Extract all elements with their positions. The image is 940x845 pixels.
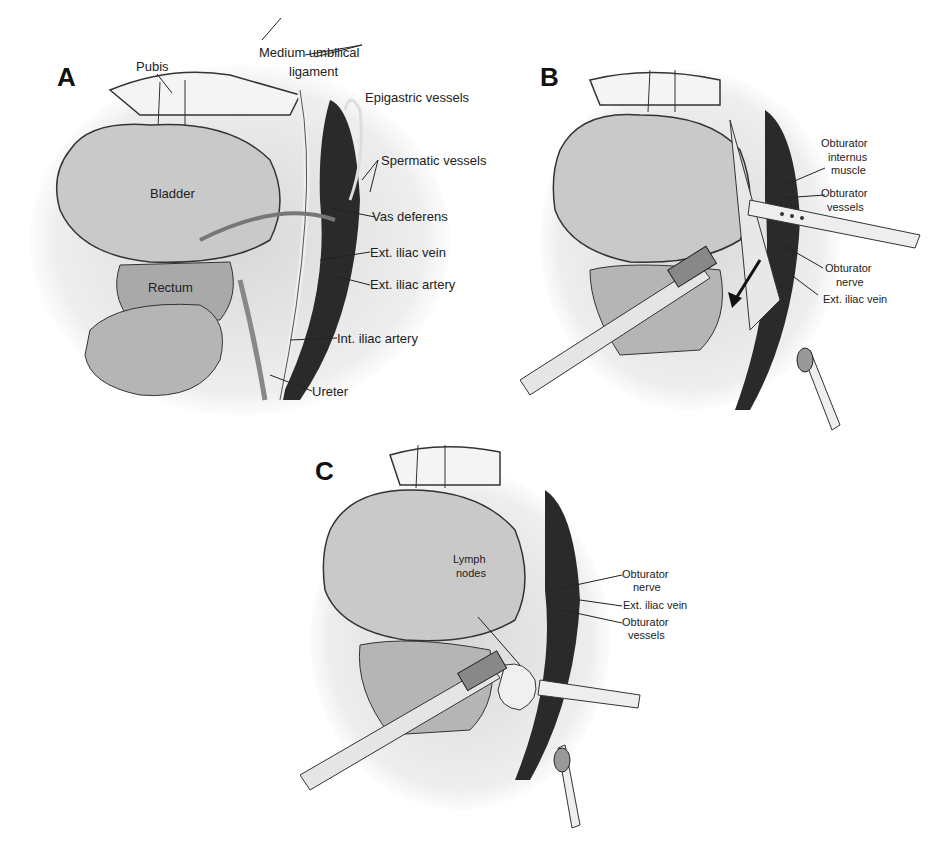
panel-b-illustration (520, 0, 940, 440)
panel-c-letter: C (315, 456, 334, 487)
label-obturator-vessels-line1: Obturator (821, 187, 867, 200)
label-vas-deferens: Vas deferens (372, 209, 448, 224)
label-obturator-vessels-line2: vessels (827, 201, 864, 214)
label-obturator-vessels-c-line2: vessels (628, 629, 665, 642)
label-obturator-nerve-c-line2: nerve (633, 581, 661, 594)
panel-a-letter: A (57, 62, 76, 93)
label-ureter: Ureter (312, 384, 348, 399)
label-ext-iliac-vein-c: Ext. iliac vein (623, 599, 687, 612)
label-obturator-internus-line1: Obturator (821, 137, 867, 150)
label-epigastric-vessels: Epigastric vessels (365, 90, 469, 105)
label-obturator-vessels-c-line1: Obturator (622, 616, 668, 629)
label-lymph-nodes-line2: nodes (456, 567, 486, 580)
label-spermatic-vessels: Spermatic vessels (381, 153, 486, 168)
label-obturator-nerve-c-line1: Obturator (622, 568, 668, 581)
panel-c: C Lymph nodes Obturator nerve Ext. iliac… (300, 440, 720, 845)
panel-b-letter: B (540, 62, 559, 93)
label-lymph-nodes-line1: Lymph (453, 553, 486, 566)
label-obturator-nerve-line2: nerve (836, 276, 864, 289)
label-int-iliac-artery: Int. iliac artery (337, 331, 418, 346)
panel-b: B Obturator internus muscle Obturator ve… (520, 0, 940, 440)
label-rectum: Rectum (148, 280, 193, 295)
panel-c-illustration (300, 440, 720, 845)
label-obturator-internus-line2: internus (828, 151, 867, 164)
label-bladder: Bladder (150, 186, 195, 201)
label-ext-iliac-artery: Ext. iliac artery (370, 277, 455, 292)
label-ext-iliac-vein-b: Ext. iliac vein (823, 293, 887, 306)
label-obturator-nerve-line1: Obturator (825, 262, 871, 275)
label-medium-umbilical-line2: ligament (289, 64, 338, 79)
label-medium-umbilical-line1: Medium umbilical (259, 45, 359, 60)
label-ext-iliac-vein: Ext. iliac vein (370, 245, 446, 260)
label-obturator-internus-line3: muscle (831, 164, 866, 177)
label-pubis: Pubis (136, 59, 169, 74)
panel-a: A Pubis Medium umbilical ligament Epigas… (0, 0, 520, 420)
